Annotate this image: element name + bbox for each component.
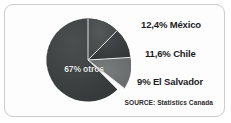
pie-chart: 67% otros: [45, 17, 131, 103]
source-note: SOURCE: Statistics Canada: [125, 99, 213, 106]
pie-callout-el-salvador: 9% El Salvador: [137, 76, 203, 87]
pie-callout-mexico: 12,4% México: [141, 19, 201, 30]
chart-frame: 67% otros 12,4% México 11,6% Chile 9% El…: [4, 4, 225, 117]
pie-label-otros: 67% otros: [53, 64, 115, 74]
pie-callout-chile: 11,6% Chile: [145, 48, 196, 59]
pie-chart-svg: [45, 17, 131, 103]
